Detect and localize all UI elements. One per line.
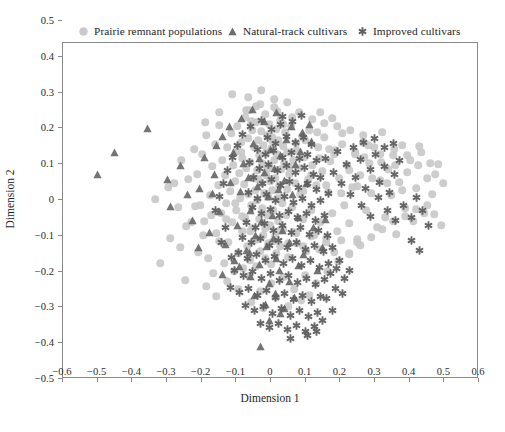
data-point (312, 185, 321, 194)
data-point (380, 143, 389, 152)
data-point (328, 306, 337, 315)
data-point (174, 203, 183, 212)
data-point (270, 95, 279, 104)
data-point (233, 221, 242, 230)
data-point (244, 188, 253, 197)
data-point (242, 218, 251, 227)
data-point (333, 227, 342, 236)
data-point (212, 141, 221, 150)
data-point (202, 131, 211, 140)
data-point (218, 156, 227, 165)
x-tick (201, 378, 202, 382)
data-point (292, 321, 301, 330)
data-point (204, 254, 213, 263)
data-point (257, 209, 266, 218)
y-tick-label: 0.3 (41, 86, 54, 97)
data-point (231, 199, 240, 208)
data-point (312, 327, 321, 336)
x-tick-label: 0.3 (367, 366, 380, 377)
data-point (215, 192, 224, 201)
x-tick (131, 378, 132, 382)
y-tick-label: −0.3 (35, 301, 54, 312)
data-point (212, 292, 221, 301)
data-point (286, 311, 295, 320)
data-point (366, 165, 375, 174)
data-point (244, 93, 253, 102)
data-point (302, 209, 311, 218)
data-point (283, 98, 292, 107)
data-point (191, 202, 200, 211)
data-point (200, 153, 209, 162)
data-point (322, 294, 331, 303)
data-point (255, 164, 264, 173)
data-point (267, 175, 276, 184)
data-point (225, 122, 234, 131)
data-point (293, 213, 302, 222)
data-point (415, 142, 424, 151)
data-point (218, 270, 227, 279)
data-point (383, 179, 392, 188)
data-point (321, 154, 330, 163)
data-point (306, 256, 315, 265)
data-point (215, 108, 224, 117)
x-tick-label: −0.5 (87, 366, 106, 377)
y-tick (58, 199, 62, 200)
data-point (288, 117, 297, 126)
data-point (209, 269, 218, 278)
y-tick-label: 0.2 (41, 122, 54, 133)
x-tick (270, 378, 271, 382)
data-point (239, 271, 248, 280)
data-point (181, 276, 190, 285)
data-point (407, 236, 416, 245)
y-tick (58, 92, 62, 93)
data-point (370, 134, 379, 143)
data-point (434, 160, 443, 169)
data-point (238, 130, 247, 139)
data-point (184, 175, 193, 184)
data-point (269, 226, 278, 235)
data-point (211, 206, 220, 215)
data-point (235, 288, 244, 297)
triangle-icon (225, 24, 239, 38)
data-point (324, 189, 333, 198)
data-point (269, 146, 278, 155)
data-point (359, 138, 368, 147)
data-point (243, 254, 252, 263)
data-point (297, 261, 306, 270)
data-point (230, 266, 239, 275)
data-point (319, 247, 328, 256)
x-tick (97, 378, 98, 382)
data-point (244, 284, 253, 293)
data-point (333, 147, 342, 156)
data-point (151, 195, 160, 204)
data-point (333, 122, 342, 131)
legend-item: Improved cultivars (355, 24, 460, 38)
x-tick-label: 0.2 (333, 366, 346, 377)
data-point (93, 170, 102, 179)
scatter-plot-figure: Prairie remnant populations Natural-trac… (0, 0, 505, 432)
data-point (315, 263, 324, 272)
data-point (166, 234, 175, 243)
data-point (337, 179, 346, 188)
data-point (412, 184, 421, 193)
data-point (215, 121, 224, 130)
data-point (253, 291, 262, 300)
data-point (194, 243, 203, 252)
y-tick (58, 306, 62, 307)
data-point (274, 236, 283, 245)
legend-label: Natural-track cultivars (243, 25, 347, 37)
y-tick (58, 56, 62, 57)
y-tick (58, 163, 62, 164)
data-point (340, 274, 349, 283)
x-tick-label: 0.1 (298, 366, 311, 377)
data-point (253, 194, 262, 203)
data-point (282, 161, 291, 170)
data-point (437, 221, 446, 230)
data-point (390, 170, 399, 179)
data-point (283, 243, 292, 252)
data-point (289, 295, 298, 304)
data-point (176, 161, 185, 170)
data-point (262, 190, 271, 199)
data-point (226, 187, 235, 196)
data-point (278, 221, 287, 230)
